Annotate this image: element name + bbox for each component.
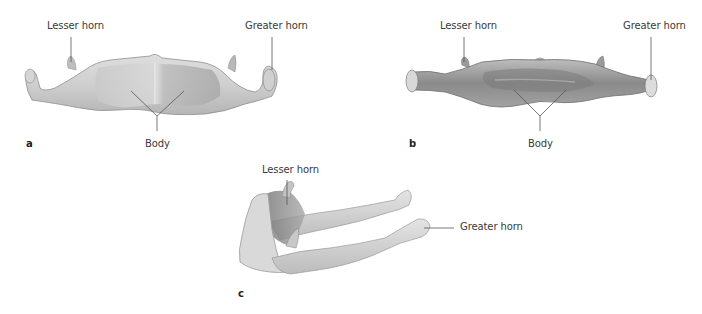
panel-letter-b: b: [409, 138, 416, 149]
panel-letter-a: a: [26, 138, 33, 149]
hyoid-bone-figure: Lesser horn Greater horn Body a Lesser h…: [0, 0, 702, 314]
panel-c-bone: [239, 182, 430, 275]
panel-a-bone: [25, 54, 277, 114]
panel-letter-c: c: [238, 288, 244, 299]
label-greater-horn-b: Greater horn: [623, 20, 686, 31]
label-greater-horn-c: Greater horn: [460, 221, 523, 232]
label-lesser-horn-a: Lesser horn: [47, 20, 104, 31]
illustration-layer: [0, 0, 702, 314]
greater-horn-tip-a: [263, 69, 275, 91]
lesser-horn-left-shape: [67, 56, 76, 70]
label-lesser-horn-c: Lesser horn: [262, 164, 319, 175]
greater-horn-tip-b-left: [406, 70, 418, 92]
lesser-horn-right-shape: [228, 55, 236, 72]
body-surface-a: [95, 64, 220, 108]
label-greater-horn-a: Greater horn: [245, 20, 308, 31]
panel-b-bone: [406, 56, 657, 107]
label-lesser-horn-b: Lesser horn: [440, 20, 497, 31]
label-body-b: Body: [528, 138, 553, 149]
label-body-a: Body: [145, 138, 170, 149]
